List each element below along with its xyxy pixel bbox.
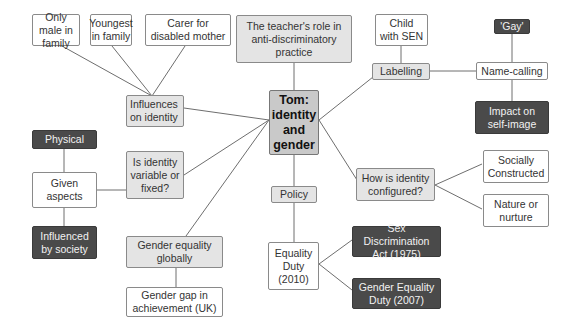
node-label: Sex Discrimination Act (1975) <box>356 222 437 261</box>
node-gender-equality-duty-2007[interactable]: Gender Equality Duty (2007) <box>352 278 441 309</box>
node-influenced-by-society[interactable]: Influenced by society <box>32 226 97 259</box>
node-label: Gender equality globally <box>130 239 219 265</box>
node-label: Only male in family <box>36 11 76 50</box>
node-label: Physical <box>45 133 84 146</box>
node-gender-gap-in-achievement-uk[interactable]: Gender gap in achievement (UK) <box>126 287 223 317</box>
node-policy[interactable]: Policy <box>271 186 317 203</box>
node-label: Youngest in family <box>89 17 132 43</box>
node-label: The teacher's role in anti-discriminator… <box>240 20 348 59</box>
node-label: Child with SEN <box>379 17 424 43</box>
mind-map-canvas: Tom: identity and gender The teacher's r… <box>0 0 576 335</box>
node-equality-duty-2010[interactable]: Equality Duty (2010) <box>268 242 319 290</box>
node-label: Carer for disabled mother <box>149 17 227 43</box>
node-physical[interactable]: Physical <box>32 130 97 149</box>
node-label: Is identity variable or fixed? <box>130 156 180 195</box>
node-how-is-identity-configured[interactable]: How is identity configured? <box>356 168 435 201</box>
node-label: Policy <box>280 188 308 201</box>
node-label: Influenced by society <box>36 230 93 256</box>
node-label: 'Gay' <box>500 20 523 33</box>
node-label: Labelling <box>380 65 422 78</box>
node-impact-on-self-image[interactable]: Impact on self-image <box>475 101 549 134</box>
node-gay[interactable]: 'Gay' <box>494 19 530 34</box>
node-label: Given aspects <box>36 177 93 203</box>
node-gender-equality-globally[interactable]: Gender equality globally <box>126 236 223 268</box>
node-label: Socially Constructed <box>487 154 545 180</box>
node-influences-on-identity[interactable]: Influences on identity <box>126 95 184 127</box>
node-socially-constructed[interactable]: Socially Constructed <box>483 150 549 183</box>
node-child-with-sen[interactable]: Child with SEN <box>375 14 428 46</box>
node-name-calling[interactable]: Name-calling <box>476 62 548 80</box>
node-label: Gender Equality Duty (2007) <box>356 281 437 307</box>
node-is-identity-variable-or-fixed[interactable]: Is identity variable or fixed? <box>126 151 184 199</box>
node-youngest-in-family[interactable]: Youngest in family <box>90 14 132 46</box>
node-labelling[interactable]: Labelling <box>372 63 430 80</box>
node-label: Influences on identity <box>130 98 180 124</box>
node-label: Name-calling <box>481 65 542 78</box>
central-node-tom-identity-gender[interactable]: Tom: identity and gender <box>269 90 319 155</box>
node-given-aspects[interactable]: Given aspects <box>32 172 97 208</box>
node-label: Gender gap in achievement (UK) <box>130 289 219 315</box>
central-node-label: Tom: identity and gender <box>272 93 316 153</box>
node-nature-or-nurture[interactable]: Nature or nurture <box>483 194 549 227</box>
node-only-male-in-family[interactable]: Only male in family <box>32 14 80 46</box>
node-label: How is identity configured? <box>360 172 431 198</box>
node-teacher-role[interactable]: The teacher's role in anti-discriminator… <box>236 15 352 63</box>
node-sex-discrimination-act-1975[interactable]: Sex Discrimination Act (1975) <box>352 226 441 257</box>
node-carer-for-disabled-mother[interactable]: Carer for disabled mother <box>145 14 231 46</box>
node-label: Equality Duty (2010) <box>272 247 315 286</box>
node-label: Nature or nurture <box>487 198 545 224</box>
node-label: Impact on self-image <box>479 105 545 131</box>
